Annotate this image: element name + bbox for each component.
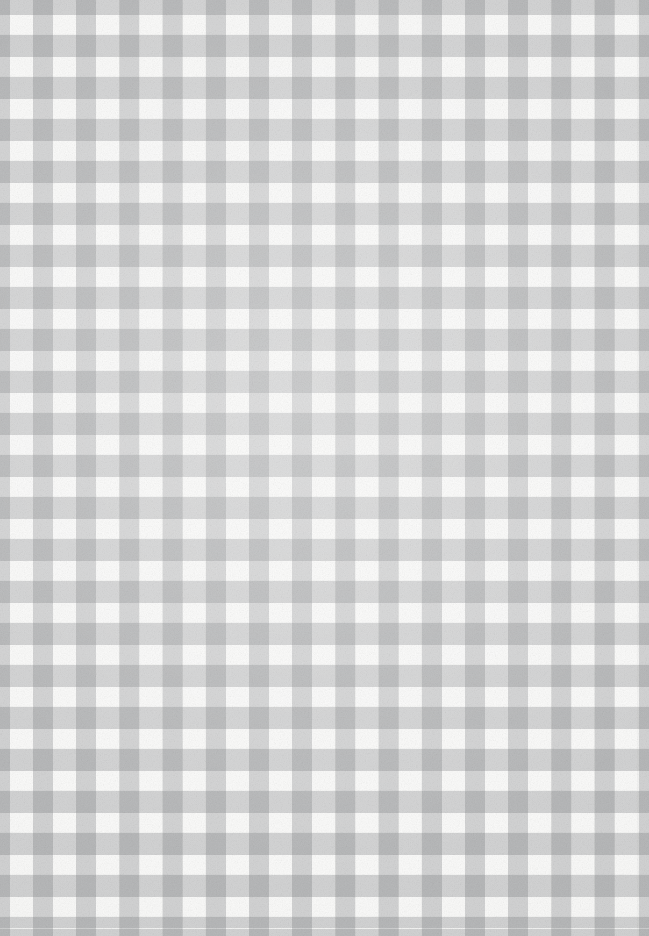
horizontal-stripe-layer <box>0 0 649 936</box>
gingham-pattern-canvas <box>0 0 649 936</box>
